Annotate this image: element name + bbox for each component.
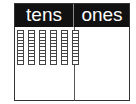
place-value-chart: tens ones: [14, 3, 130, 101]
ones-header: ones: [74, 4, 130, 27]
unit-cube: [29, 61, 34, 64]
tens-rods: [17, 30, 79, 65]
ten-rod: [17, 30, 24, 65]
tens-header: tens: [15, 4, 74, 27]
chart-header: tens ones: [15, 4, 129, 27]
ten-rod: [28, 30, 35, 65]
unit-cube: [18, 61, 23, 64]
ten-rod: [50, 30, 57, 65]
ones-column: [75, 27, 130, 101]
ten-rod: [61, 30, 68, 65]
unit-cube: [40, 61, 45, 64]
unit-cube: [62, 61, 67, 64]
ten-rod: [39, 30, 46, 65]
unit-cube: [51, 61, 56, 64]
